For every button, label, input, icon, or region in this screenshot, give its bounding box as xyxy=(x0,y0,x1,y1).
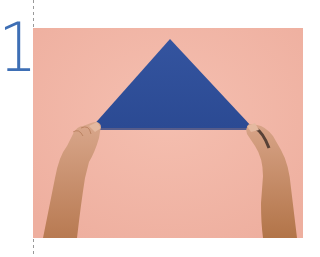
dashed-guide-bottom xyxy=(33,239,34,257)
step-illustration xyxy=(33,28,303,238)
step-number: 1 xyxy=(0,14,37,82)
dashed-guide-top xyxy=(33,0,34,27)
